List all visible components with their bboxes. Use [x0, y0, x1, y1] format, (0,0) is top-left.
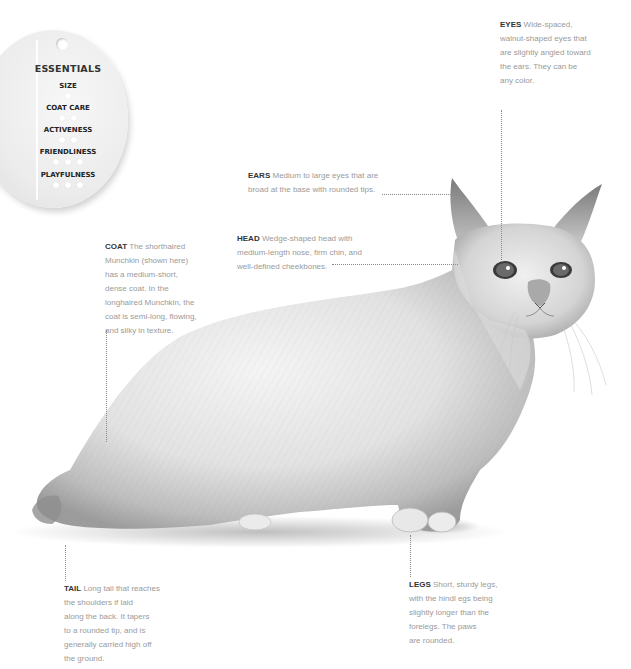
- annotation-eyes: EYES Wide-spaced, walnut-shaped eyes tha…: [500, 18, 630, 88]
- annotation-label: LEGS: [409, 580, 431, 589]
- annotation-label: COAT: [105, 242, 127, 251]
- rating-playfulness: PLAYFULNESS: [13, 171, 123, 190]
- coat-leader-line: [106, 330, 107, 442]
- paw-rating: [13, 115, 123, 123]
- paw-rating: [13, 93, 123, 101]
- legs-leader-line: [410, 535, 411, 577]
- annotation-text: Wide-spaced,: [524, 20, 573, 29]
- annotation-text: Wedge-shaped head with: [262, 234, 353, 243]
- paw-icon: [65, 182, 71, 188]
- annotation-text: walnut-shaped eyes that: [500, 32, 630, 46]
- annotation-text: any color.: [500, 74, 630, 88]
- paw-icon: [77, 182, 83, 188]
- annotation-text: are slightly angled toward: [500, 46, 630, 60]
- annotation-text: has a medium-short,: [105, 268, 225, 282]
- paw-icon: [65, 93, 71, 99]
- annotation-text: are rounded.: [409, 634, 539, 648]
- annotation-text: the shoulders if laid: [64, 596, 194, 610]
- paw-icon: [59, 137, 65, 143]
- rating-friendliness: FRIENDLINESS: [13, 148, 123, 167]
- rating-label: COAT CARE: [13, 104, 123, 112]
- annotation-text: longhaired Munchkin, the: [105, 296, 225, 310]
- paw-icon: [53, 159, 59, 165]
- annotation-text: and silky in texture.: [105, 324, 225, 338]
- annotation-text: Short, sturdy legs,: [433, 580, 497, 589]
- annotation-label: TAIL: [64, 584, 81, 593]
- tail-leader-line: [65, 545, 66, 581]
- rating-label: PLAYFULNESS: [13, 171, 123, 179]
- essentials-title: ESSENTIALS: [18, 63, 118, 74]
- eyes-leader-line: [501, 110, 502, 260]
- annotation-text: well-defined cheekbones.: [237, 260, 437, 274]
- tag-hole: [56, 38, 68, 50]
- annotation-label: HEAD: [237, 234, 260, 243]
- head-leader-line: [332, 264, 458, 265]
- paw-icon: [53, 182, 59, 188]
- annotation-text: slightly longer than the: [409, 606, 539, 620]
- annotation-text: forelegs. The paws: [409, 620, 539, 634]
- annotation-head: HEAD Wedge-shaped head with medium-lengt…: [237, 232, 437, 274]
- annotation-legs: LEGS Short, sturdy legs, with the hindl …: [409, 578, 539, 648]
- annotation-text: along the back. It tapers: [64, 610, 194, 624]
- annotation-text: the ears. They can be: [500, 60, 630, 74]
- rating-activeness: ACTIVENESS: [13, 126, 123, 145]
- paw-icon: [71, 115, 77, 121]
- rating-label: SIZE: [13, 82, 123, 90]
- rating-label: ACTIVENESS: [13, 126, 123, 134]
- paw-icon: [77, 159, 83, 165]
- annotation-label: EARS: [248, 171, 270, 180]
- paw-rating: [13, 159, 123, 167]
- paw-icon: [71, 137, 77, 143]
- ears-leader-line: [382, 194, 457, 195]
- rating-label: FRIENDLINESS: [13, 148, 123, 156]
- annotation-label: EYES: [500, 20, 521, 29]
- annotation-text: to a rounded tip, and is: [64, 624, 194, 638]
- annotation-text: dense coat. In the: [105, 282, 225, 296]
- rating-coat-care: COAT CARE: [13, 104, 123, 123]
- annotation-tail: TAIL Long tail that reaches the shoulder…: [64, 582, 194, 666]
- paw-icon: [59, 115, 65, 121]
- paw-rating: [13, 182, 123, 190]
- annotation-coat: COAT The shorthaired Munchkin (shown her…: [105, 240, 225, 338]
- annotation-text: The shorthaired: [129, 242, 185, 251]
- paw-icon: [65, 159, 71, 165]
- annotation-text: with the hindl egs being: [409, 592, 539, 606]
- annotation-text: coat is semi-long, flowing,: [105, 310, 225, 324]
- annotation-ears: EARS Medium to large eyes that are broad…: [248, 169, 448, 197]
- rating-size: SIZE: [13, 82, 123, 101]
- annotation-text: medium-length nose, firm chin, and: [237, 246, 437, 260]
- annotation-text: the ground.: [64, 652, 194, 666]
- annotation-text: Medium to large eyes that are: [272, 171, 378, 180]
- annotation-text: generally carried high off: [64, 638, 194, 652]
- paw-rating: [13, 137, 123, 145]
- annotation-text: Long tail that reaches: [83, 584, 160, 593]
- annotation-text: Munchkin (shown here): [105, 254, 225, 268]
